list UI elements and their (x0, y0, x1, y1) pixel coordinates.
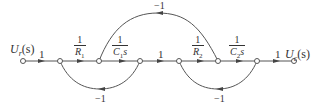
gain-g6-den-tail: s (240, 46, 244, 57)
gain-g2-den: R1 (74, 45, 86, 60)
feedback-top-label: −1 (154, 1, 165, 11)
feedback-arc-left (60, 61, 140, 89)
gain-g6-den: C2s (229, 45, 245, 60)
feedback-left-label: −1 (95, 94, 106, 104)
gain-g7: 1 (275, 49, 281, 60)
gain-g2-den-sub: 1 (81, 52, 85, 60)
arrow-icon (98, 87, 105, 91)
output-label-arg: (s) (297, 47, 310, 61)
feedback-arc-right (179, 61, 257, 89)
arrow-icon (216, 87, 223, 91)
gain-g6-den-main: C (230, 46, 237, 57)
input-label-arg: (s) (22, 42, 35, 56)
gain-g4: 1 (158, 49, 164, 60)
gain-g5-num: 1 (194, 35, 201, 45)
node-6 (216, 59, 221, 64)
gain-g3-num: 1 (117, 35, 124, 45)
node-7 (255, 59, 260, 64)
gain-g1: 1 (39, 49, 45, 60)
node-3 (97, 59, 102, 64)
output-label-main: U (285, 47, 294, 61)
input-label: Ur(s) (10, 43, 34, 58)
gain-g2-num: 1 (76, 35, 83, 45)
gain-g6: 1 C2s (229, 35, 245, 60)
gain-g3: 1 C1s (112, 35, 128, 60)
node-2 (58, 59, 63, 64)
gain-g3-den: C1s (112, 45, 128, 60)
node-1 (21, 59, 26, 64)
node-5 (177, 59, 182, 64)
gain-g6-num: 1 (234, 35, 241, 45)
gain-g3-den-main: C (113, 46, 120, 57)
arrow-icon (156, 11, 163, 15)
node-4 (138, 59, 143, 64)
input-label-main: U (10, 42, 19, 56)
gain-g3-den-tail: s (123, 46, 127, 57)
gain-g2: 1 R1 (74, 35, 86, 60)
feedback-right-label: −1 (214, 94, 225, 104)
gain-g5-den-sub: 2 (199, 52, 203, 60)
gain-g5-den: R2 (192, 45, 204, 60)
gain-g5: 1 R2 (192, 35, 204, 60)
output-label: Uc(s) (285, 48, 310, 63)
